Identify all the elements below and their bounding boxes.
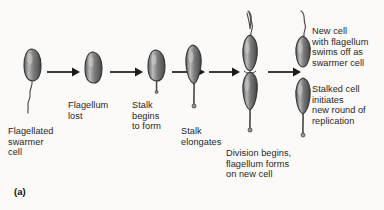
stage-dividing-cell-pair — [234, 8, 268, 136]
label-stalk-begins-to-form: Stalk begins to form — [132, 100, 161, 132]
label-flagellated-swarmer-cell: Flagellated swarmer cell — [8, 126, 54, 158]
stage-stalk-elongated-cell — [180, 42, 210, 118]
label-flagellum-lost: Flagellum lost — [68, 100, 108, 121]
stage-flagellum-lost-cell — [80, 50, 110, 92]
arrow-2 — [110, 66, 144, 78]
label-stalked-cell-replication: Stalked cell initiates new round of repl… — [312, 84, 366, 126]
label-new-cell-swims-off: New cell with flagellum swims off as swa… — [312, 26, 368, 68]
label-division-begins: Division begins, flagellum forms on new … — [226, 148, 291, 180]
stage-stalk-forming-cell — [143, 48, 173, 100]
stage-flagellated-swarmer-cell — [18, 46, 52, 114]
label-stalk-elongates: Stalk elongates — [181, 126, 221, 147]
arrow-1 — [47, 66, 81, 78]
panel-label: (a) — [14, 186, 26, 197]
figure-panel: Flagellated swarmer cell Flagellum lost — [0, 0, 384, 210]
